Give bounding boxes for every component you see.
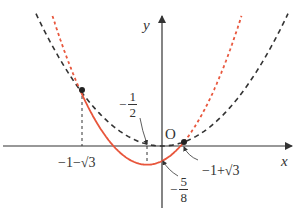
leader-right-root (184, 147, 198, 160)
right-root-label: −1+√3 (202, 164, 239, 178)
graph-figure: y x O −1−√3 −1+√3 − 1 2 − 5 8 (0, 0, 300, 212)
label-minus-five-eighths: − 5 8 (170, 175, 188, 204)
curve-red-dotted-right (184, 16, 242, 142)
cropped-caption (0, 0, 300, 3)
leader-five-eighths (163, 161, 178, 176)
left-root-label: −1−√3 (58, 156, 95, 170)
label-minus-half: − 1 2 (119, 90, 137, 119)
origin-label: O (165, 127, 176, 142)
leader-half (140, 118, 147, 144)
curve-red-dotted-left (53, 16, 81, 90)
plot-area (0, 0, 300, 212)
intersection-point-left (79, 87, 85, 93)
y-axis-label: y (143, 18, 150, 33)
intersection-point-right (181, 139, 187, 145)
x-axis-label: x (281, 154, 288, 169)
